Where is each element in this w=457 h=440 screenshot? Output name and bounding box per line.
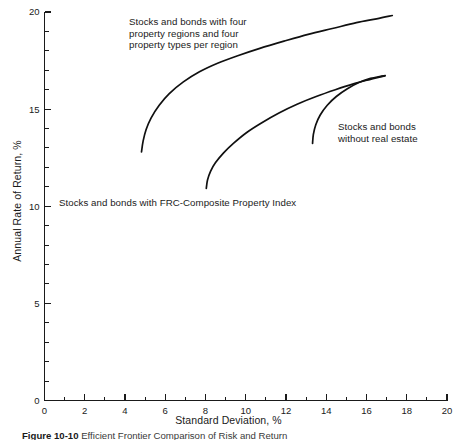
figure-root: 0510152002468101214161820 Standard Devia…: [0, 0, 457, 440]
y-tick-label: 15: [29, 104, 40, 115]
y-axis-title: Annual Rate of Return, %: [11, 121, 23, 281]
chart-plot-area: 0510152002468101214161820: [0, 0, 457, 440]
annotation-frc-frontier: Stocks and bonds with FRC-Composite Prop…: [59, 197, 296, 209]
figure-caption-text: Efficient Frontier Comparison of Risk an…: [81, 430, 287, 440]
annotation-top-frontier: Stocks and bonds with four property regi…: [129, 16, 247, 51]
y-tick-label: 0: [34, 395, 39, 406]
x-axis-title: Standard Deviation, %: [0, 414, 457, 426]
figure-caption-label: Figure 10-10: [22, 430, 79, 440]
annotation-right-frontier: Stocks and bonds without real estate: [338, 121, 418, 144]
figure-caption: Figure 10-10 Efficient Frontier Comparis…: [22, 430, 452, 440]
y-tick-label: 20: [29, 6, 40, 17]
y-tick-label: 5: [34, 298, 39, 309]
y-tick-label: 10: [29, 201, 40, 212]
tick-labels-group: 0510152002468101214161820: [29, 6, 452, 416]
